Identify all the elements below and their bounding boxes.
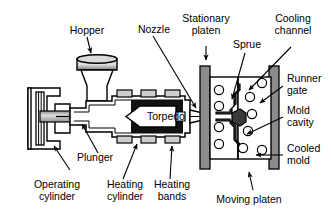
label-runner-gate-line2: gate [287,84,308,96]
heating-bands-bottom-group [117,136,180,143]
cooling-channel-10 [257,145,266,154]
cooling-channel-5 [245,92,254,101]
label-heating-bands-line2: bands [158,190,187,202]
label-cooling-channel-line1: Cooling [275,12,311,24]
cooling-channel-3 [214,122,223,131]
leader-moving-platen [249,172,253,190]
diagram-svg: Hopper Nozzle Stationary platen Sprue Co… [0,0,331,220]
label-torpedo: Torpedo [147,110,185,122]
label-heating-cylinder-line1: Heating [107,178,143,190]
heating-band-bottom-3 [165,136,180,143]
label-cooling-channel-line2: channel [275,24,312,36]
label-mold-cavity-line2: cavity [287,116,315,128]
cooling-channel-7 [243,126,252,135]
leader-hopper [87,37,91,53]
hopper-rim [77,55,117,63]
label-heating-cylinder-line2: cylinder [107,190,144,202]
stationary-platen [200,66,210,169]
label-heating-bands-line1: Heating [154,178,190,190]
label-stationary-platen-line1: Stationary [182,12,230,24]
label-operating-cylinder-line1: Operating [34,178,80,190]
leader-operating-cylinder [54,146,70,170]
mold-group [210,77,271,159]
label-cooled-mold-line2: mold [287,154,310,166]
label-plunger: Plunger [77,151,114,163]
heating-band-top-2 [141,90,156,97]
label-hopper: Hopper [70,24,105,36]
heating-bands-top-group [117,90,180,97]
cooling-channel-4 [214,139,223,148]
heating-band-bottom-1 [117,136,132,143]
injection-molding-diagram: Hopper Nozzle Stationary platen Sprue Co… [0,0,331,220]
label-cooled-mold-line1: Cooled [287,142,320,154]
label-mold-cavity-line1: Mold [287,104,310,116]
heating-band-bottom-2 [141,136,156,143]
label-moving-platen: Moving platen [216,193,282,205]
cooling-channel-8 [238,143,247,152]
leader-heating-cylinder [123,144,137,179]
hopper-throat [81,70,113,101]
label-operating-cylinder-line2: cylinder [39,190,76,202]
cooling-channel-1 [214,85,223,94]
label-nozzle: Nozzle [138,23,170,35]
cooling-channel-2 [214,101,223,110]
heating-band-top-3 [165,90,180,97]
heating-band-top-1 [117,90,132,97]
cylinder-back-wall [28,88,31,149]
hopper-group [77,55,117,101]
label-runner-gate-line1: Runner [287,72,322,84]
label-stationary-platen-line2: platen [192,24,221,36]
leader-heating-bands [170,146,172,179]
label-sprue: Sprue [233,38,261,50]
cooling-channel-6 [247,109,256,118]
